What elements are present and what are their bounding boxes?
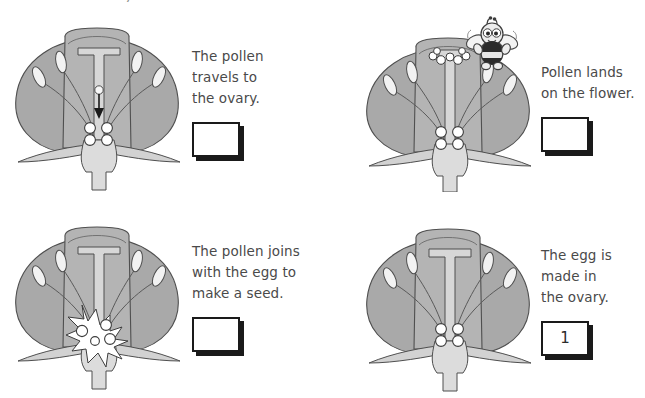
panel-caption: Pollen lands on the flower.: [541, 62, 645, 104]
answer-box[interactable]: 1: [541, 321, 589, 356]
flower-cross-section-pollen-travelling: [10, 22, 188, 194]
caption-column: The pollen joins with the egg to make a …: [192, 241, 324, 352]
panel-caption: The pollen joins with the egg to make a …: [192, 241, 324, 304]
panel-egg-made: The egg is made in the ovary. 1: [323, 199, 645, 398]
flower-cross-section-egg-in-ovary: [361, 221, 539, 393]
caption-column: The pollen travels to the ovary.: [192, 46, 318, 157]
answer-box[interactable]: [192, 317, 240, 352]
panel-caption: The egg is made in the ovary.: [541, 245, 645, 308]
answer-box[interactable]: [192, 122, 240, 157]
caption-column: Pollen lands on the flower.: [541, 62, 645, 152]
answer-value: 1: [560, 331, 570, 346]
bee-icon: [461, 16, 523, 76]
panel-pollen-lands: Pollen lands on the flower.: [323, 0, 645, 199]
panel-caption: The pollen travels to the ovary.: [192, 46, 318, 109]
caption-column: The egg is made in the ovary. 1: [541, 245, 645, 356]
answer-box[interactable]: [541, 117, 589, 152]
panel-pollen-travels: The pollen travels to the ovary.: [0, 0, 322, 199]
flower-cross-section-fertilisation: [10, 221, 188, 393]
panel-pollen-joins-egg: The pollen joins with the egg to make a …: [0, 199, 322, 398]
flower-cross-section-bee-landing: [361, 20, 539, 192]
